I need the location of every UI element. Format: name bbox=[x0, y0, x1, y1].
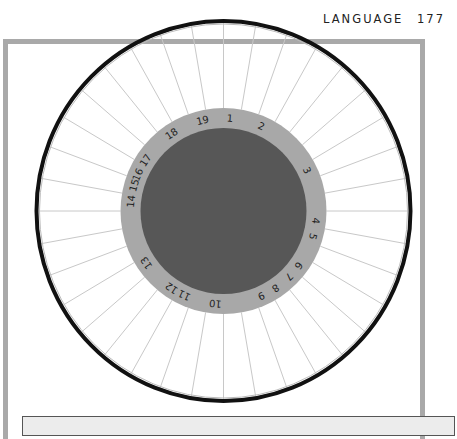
spoke bbox=[259, 308, 287, 388]
spoke bbox=[241, 312, 255, 396]
spoke bbox=[313, 263, 384, 306]
hub-disc bbox=[141, 128, 307, 294]
spoke bbox=[290, 67, 343, 132]
spoke bbox=[275, 48, 316, 122]
spoke bbox=[275, 300, 316, 374]
ring-label: 1 bbox=[226, 113, 233, 124]
spoke bbox=[160, 308, 188, 388]
spoke bbox=[105, 290, 158, 355]
spoke bbox=[302, 90, 365, 145]
spoke bbox=[241, 26, 255, 110]
caption-box bbox=[22, 416, 455, 436]
spoke bbox=[105, 67, 158, 132]
spoke bbox=[131, 300, 172, 374]
spoke bbox=[302, 277, 365, 332]
ring-label: 4 bbox=[310, 217, 322, 224]
spoke bbox=[320, 147, 397, 176]
spoke bbox=[160, 34, 188, 114]
spoke bbox=[320, 246, 397, 275]
spoke bbox=[313, 117, 384, 160]
spoke bbox=[82, 90, 145, 145]
spoke bbox=[325, 229, 406, 244]
spoke bbox=[50, 147, 127, 176]
ring-label: 10 bbox=[209, 298, 223, 310]
spoke bbox=[290, 290, 343, 355]
spoke bbox=[325, 178, 406, 193]
spoke bbox=[191, 26, 205, 110]
spoke bbox=[63, 263, 134, 306]
spoke bbox=[82, 277, 145, 332]
ring-label: 14 bbox=[125, 194, 137, 208]
spoke bbox=[131, 48, 172, 122]
spoke bbox=[41, 229, 122, 244]
spoke bbox=[259, 34, 287, 114]
spoke bbox=[63, 117, 134, 160]
spoke bbox=[41, 178, 122, 193]
spoke bbox=[191, 312, 205, 396]
spoke bbox=[50, 246, 127, 275]
